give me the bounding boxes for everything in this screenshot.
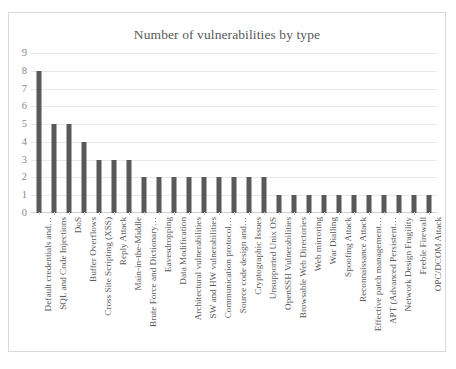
tick-mark <box>189 212 190 215</box>
bar-slot <box>302 53 317 213</box>
tick-mark <box>54 212 55 215</box>
tick-mark <box>354 212 355 215</box>
chart-title: Number of vulnerabilities by type <box>9 27 445 43</box>
x-axis-category: Buffer Overflows <box>76 215 91 347</box>
tick-mark <box>144 212 145 215</box>
y-axis-tick-8: 8 <box>22 66 27 77</box>
bar[interactable] <box>66 124 71 213</box>
x-axis-category: Source code design and… <box>226 215 241 347</box>
bar-slot <box>392 53 407 213</box>
x-axis-category: Reply Attack <box>106 215 121 347</box>
bar-slot <box>272 53 287 213</box>
bar-slot <box>362 53 377 213</box>
bar[interactable] <box>352 195 357 213</box>
x-axis-category: OpenSSH Vulnerabilities <box>272 215 287 347</box>
x-axis-category: Browsable Web Directories <box>287 215 302 347</box>
x-axis-category: Main-in-the-Middle <box>121 215 136 347</box>
x-axis-label: OPC/DCOM Attack <box>434 217 443 291</box>
tick-mark <box>429 212 430 215</box>
tick-mark <box>384 212 385 215</box>
y-axis-tick-3: 3 <box>22 154 27 165</box>
bar[interactable] <box>186 177 191 213</box>
bar[interactable] <box>397 195 402 213</box>
chart-frame: Number of vulnerabilities by type 012345… <box>8 12 446 352</box>
x-axis-category: Data Modification <box>166 215 181 347</box>
bar[interactable] <box>81 142 86 213</box>
bar[interactable] <box>201 177 206 213</box>
tick-mark <box>294 212 295 215</box>
bar-slot <box>121 53 136 213</box>
bar-slot <box>287 53 302 213</box>
x-axis-category: Spoofing Attack <box>332 215 347 347</box>
bar[interactable] <box>231 177 236 213</box>
bar-slot <box>76 53 91 213</box>
bar-series <box>31 53 437 213</box>
y-axis-tick-4: 4 <box>22 137 27 148</box>
tick-mark <box>174 212 175 215</box>
tick-mark <box>279 212 280 215</box>
bar-slot <box>91 53 106 213</box>
x-axis-category: Architectural vulnerabilities <box>181 215 196 347</box>
bar-slot <box>347 53 362 213</box>
bar-slot <box>181 53 196 213</box>
x-axis-category: APT (Advanced Persistent… <box>377 215 392 347</box>
x-axis-category: DoS <box>61 215 76 347</box>
tick-mark <box>159 212 160 215</box>
bar[interactable] <box>262 177 267 213</box>
bar-slot <box>226 53 241 213</box>
y-axis-tick-6: 6 <box>22 101 27 112</box>
x-axis-labels: Default credentials and…SQL and Code Inj… <box>31 215 437 347</box>
bar-slot <box>257 53 272 213</box>
bar-slot <box>377 53 392 213</box>
bar[interactable] <box>111 160 116 213</box>
bar-slot <box>61 53 76 213</box>
bar[interactable] <box>216 177 221 213</box>
y-axis-tick-2: 2 <box>22 172 27 183</box>
bar[interactable] <box>247 177 252 213</box>
tick-mark <box>69 212 70 215</box>
x-axis-category: Feeble Firewall <box>407 215 422 347</box>
tick-mark <box>309 212 310 215</box>
x-axis-category: Default credentials and… <box>31 215 46 347</box>
x-axis-category: SW and HW vulnerabilities <box>196 215 211 347</box>
bar-slot <box>106 53 121 213</box>
bar[interactable] <box>427 195 432 213</box>
tick-mark <box>399 212 400 215</box>
tick-mark <box>204 212 205 215</box>
bar[interactable] <box>307 195 312 213</box>
bar-slot <box>136 53 151 213</box>
tick-mark <box>234 212 235 215</box>
y-axis-tick-5: 5 <box>22 119 27 130</box>
tick-mark <box>324 212 325 215</box>
bar-slot <box>317 53 332 213</box>
bar-slot <box>31 53 46 213</box>
bar[interactable] <box>171 177 176 213</box>
y-axis-tick-7: 7 <box>22 83 27 94</box>
bar[interactable] <box>126 160 131 213</box>
x-axis-category: Cryptographic Issues <box>242 215 257 347</box>
bar-slot <box>196 53 211 213</box>
bar-slot <box>166 53 181 213</box>
y-axis-tick-1: 1 <box>22 190 27 201</box>
bar-slot <box>46 53 61 213</box>
x-axis-category: Network Design Fragility <box>392 215 407 347</box>
bar[interactable] <box>277 195 282 213</box>
bar[interactable] <box>337 195 342 213</box>
bar-slot <box>407 53 422 213</box>
bar[interactable] <box>96 160 101 213</box>
bar[interactable] <box>322 195 327 213</box>
bar[interactable] <box>36 71 41 213</box>
x-axis-category: Communication protocol… <box>211 215 226 347</box>
bar[interactable] <box>382 195 387 213</box>
bar[interactable] <box>51 124 56 213</box>
bar[interactable] <box>156 177 161 213</box>
bar[interactable] <box>141 177 146 213</box>
tick-mark <box>264 212 265 215</box>
bar[interactable] <box>292 195 297 213</box>
bar[interactable] <box>367 195 372 213</box>
x-axis-category: Web mirroring <box>302 215 317 347</box>
bar[interactable] <box>412 195 417 213</box>
x-axis-category: Cross Site Scripting (XSS) <box>91 215 106 347</box>
bar-slot <box>211 53 226 213</box>
x-axis-category: SQL and Code Injections <box>46 215 61 347</box>
